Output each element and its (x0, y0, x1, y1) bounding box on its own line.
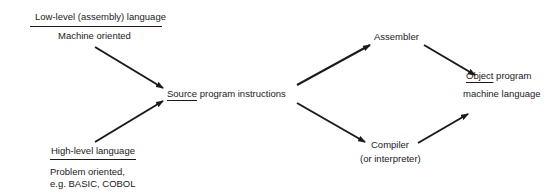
arrow-compiler-to-object (418, 114, 468, 143)
arrow-lowlevel-to-source (95, 47, 163, 88)
arrow-assembler-to-object (424, 45, 475, 75)
arrow-highlevel-to-source (95, 101, 163, 142)
arrow-source-to-compiler (297, 103, 365, 142)
arrows-layer (0, 0, 544, 196)
arrow-source-to-assembler (297, 45, 370, 85)
